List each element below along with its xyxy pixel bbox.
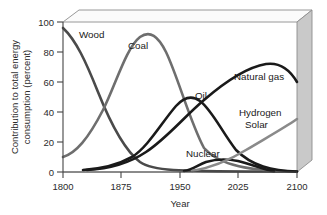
- energy-consumption-chart: 100 80 60 40 20 0 1800 1875 1950 2025 21…: [0, 0, 327, 215]
- x-tick-label-1800: 1800: [52, 181, 73, 192]
- y-tick-labels: 100 80 60 40 20 0: [38, 17, 54, 178]
- curve-label-wood: Wood: [79, 29, 104, 40]
- x-axis-title: Year: [170, 198, 189, 209]
- y-axis-title: Contribution to total energy consumption…: [9, 40, 32, 154]
- chart-canvas: 100 80 60 40 20 0 1800 1875 1950 2025 21…: [0, 0, 327, 215]
- y-tick-label-0: 0: [49, 167, 54, 178]
- curve-label-solar: Solar: [245, 119, 269, 130]
- y-axis-title-line1: Contribution to total energy: [9, 40, 20, 154]
- axes-group: [57, 22, 297, 178]
- y-tick-label-80: 80: [43, 47, 54, 58]
- curve-label-coal: Coal: [128, 40, 148, 51]
- y-tick-label-20: 20: [43, 137, 54, 148]
- y-tick-label-60: 60: [43, 77, 54, 88]
- curve-label-natural-gas: Natural gas: [234, 71, 284, 82]
- y-tick-label-40: 40: [43, 107, 54, 118]
- curve-wood: [63, 28, 297, 172]
- frame-top-panel: [63, 10, 312, 22]
- frame-right-panel: [297, 10, 312, 172]
- x-tick-label-2100: 2100: [286, 181, 307, 192]
- y-tick-label-100: 100: [38, 17, 54, 28]
- curves-group: [63, 28, 297, 172]
- y-axis-title-line2: consumption (percent): [21, 50, 32, 145]
- x-tick-labels: 1800 1875 1950 2025 2100: [52, 181, 307, 192]
- x-tick-label-1950: 1950: [169, 181, 190, 192]
- curve-label-nuclear: Nuclear: [186, 148, 220, 159]
- x-tick-label-1875: 1875: [110, 181, 131, 192]
- x-tick-label-2025: 2025: [227, 181, 248, 192]
- curve-label-oil: Oil: [195, 90, 207, 101]
- curve-label-hydrogen: Hydrogen: [239, 107, 281, 118]
